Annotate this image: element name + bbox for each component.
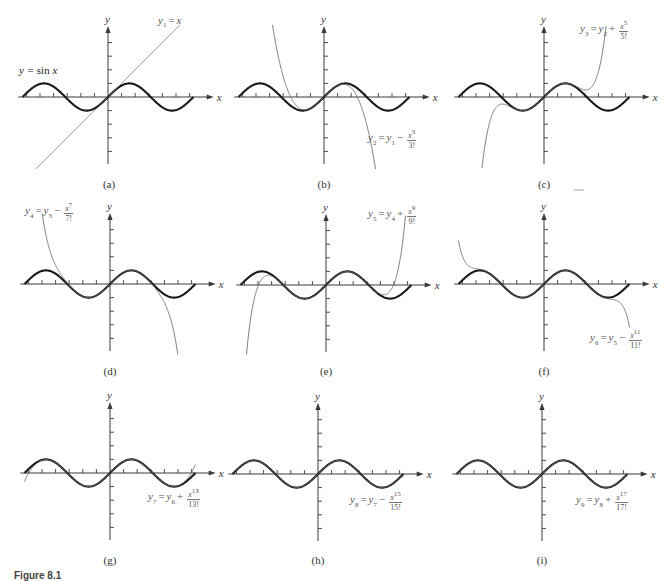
eq-fraction: x99! <box>407 204 416 226</box>
eq-den: 11! <box>629 341 641 350</box>
eq-rhs-sub: 6 <box>172 498 176 506</box>
eq-rhs-sub: 4 <box>392 215 396 223</box>
eq-num-sup: 9 <box>412 204 416 212</box>
equation-f: y6=y5−x1111! <box>590 328 642 350</box>
equation-e: y5=y4+x99! <box>368 204 416 226</box>
eq-op: + <box>609 22 615 34</box>
equation-i: y9=y8+x1717! <box>576 490 628 512</box>
plot-svg: xy <box>0 0 220 190</box>
y-axis-label: y <box>540 200 546 212</box>
eq-fraction: x55! <box>619 19 628 41</box>
panel-h: xy <box>210 377 430 567</box>
plot-svg: xy <box>2 376 222 566</box>
sin-label-arg: x <box>50 64 58 76</box>
eq-lhs-sub: 8 <box>355 501 359 509</box>
eq-lhs-sub: 6 <box>595 339 599 347</box>
panel-label-i: (i) <box>522 554 562 566</box>
y-axis-label: y <box>314 390 320 402</box>
eq-op: + <box>397 207 403 219</box>
y-axis-arrow-icon <box>105 26 110 33</box>
eq-den: 13! <box>187 500 200 509</box>
eq-fraction: x33! <box>407 128 416 150</box>
panel-g: xy <box>2 376 222 566</box>
y-axis-label: y <box>104 13 110 25</box>
eq-num-sup: 11 <box>634 328 641 336</box>
x-axis-arrow-icon <box>417 471 424 476</box>
equation-c: y3=y2+x55! <box>580 19 628 41</box>
panel-label-h: (h) <box>298 554 338 566</box>
panel-label-e: (e) <box>306 365 346 377</box>
x-axis-label: x <box>426 468 432 480</box>
eq-rhs: x <box>177 14 182 26</box>
eq-op: − <box>54 204 60 216</box>
y-axis-arrow-icon <box>323 214 328 221</box>
y-axis-label: y <box>106 200 112 212</box>
eq-den: 3! <box>407 141 416 150</box>
eq-den: 5! <box>619 32 628 41</box>
equation-g: y7=y6+x1313! <box>148 487 200 509</box>
eq-lhs-sub: 5 <box>373 215 377 223</box>
y-axis-label: y <box>106 389 112 401</box>
panel-label-a: (a) <box>89 178 129 190</box>
eq-lhs-sub: 4 <box>30 212 34 220</box>
panel-a: xy <box>0 0 220 190</box>
y-axis-arrow-icon <box>541 26 546 33</box>
eq-fraction: x77! <box>64 201 73 223</box>
eq-num-sup: 15 <box>394 490 401 498</box>
eq-den: 15! <box>389 503 402 512</box>
eq-op: − <box>397 131 403 143</box>
panel-label-b: (b) <box>304 178 344 190</box>
x-axis-arrow-icon <box>423 94 430 99</box>
y-axis-arrow-icon <box>107 402 112 409</box>
eq-fraction: x1111! <box>629 328 641 350</box>
panel-i: xy <box>434 377 654 567</box>
x-axis-label: x <box>652 278 658 290</box>
equation-a: y1=x <box>158 14 182 29</box>
x-axis-arrow-icon <box>643 94 650 99</box>
eq-fraction: x1515! <box>389 490 402 512</box>
eq-fraction: x1717! <box>615 490 628 512</box>
eq-rhs-sub: 7 <box>374 501 378 509</box>
y-axis-arrow-icon <box>107 213 112 220</box>
eq-lhs-sub: 2 <box>373 139 377 147</box>
eq-den: 7! <box>64 214 73 223</box>
x-axis-arrow-icon <box>643 281 650 286</box>
plot-svg: xy <box>210 377 430 567</box>
sin-label: y = sin x <box>19 64 57 76</box>
eq-rhs-sub: 5 <box>614 339 618 347</box>
eq-rhs-sub: 8 <box>600 501 604 509</box>
y-axis-arrow-icon <box>541 213 546 220</box>
eq-fraction: x1313! <box>187 487 200 509</box>
x-axis-arrow-icon <box>209 281 216 286</box>
eq-num-sup: 5 <box>624 19 628 27</box>
eq-num-sup: 17 <box>620 490 627 498</box>
plot-svg: xy <box>434 377 654 567</box>
y-axis-label: y <box>538 390 544 402</box>
y-axis-label: y <box>540 13 546 25</box>
eq-den: 17! <box>615 503 628 512</box>
eq-lhs-sub: 1 <box>163 21 167 29</box>
x-axis-arrow-icon <box>425 282 432 287</box>
y-axis-label: y <box>322 201 328 213</box>
equation-b: y2=y1−x33! <box>368 128 416 150</box>
sin-label-equals: = <box>24 64 37 76</box>
eq-op: + <box>177 490 183 502</box>
y-axis-arrow-icon <box>315 403 320 410</box>
eq-lhs-sub: 3 <box>585 30 589 38</box>
eq-lhs-sub: 9 <box>581 501 585 509</box>
panel-label-d: (d) <box>90 365 130 377</box>
y-axis-label: y <box>320 13 326 25</box>
eq-rhs-sub: 3 <box>49 212 53 220</box>
x-axis-arrow-icon <box>207 94 214 99</box>
panel-b: xy <box>216 0 436 190</box>
eq-num-sup: 7 <box>69 201 73 209</box>
eq-rhs-sub: 2 <box>604 30 608 38</box>
eq-op: − <box>619 331 625 343</box>
equation-d: y4=y3−x77! <box>25 201 73 223</box>
plot-svg: xy <box>216 0 436 190</box>
y-axis-arrow-icon <box>539 403 544 410</box>
eq-num-sup: 3 <box>412 128 416 136</box>
scan-artifact <box>574 189 584 191</box>
eq-num-sup: 13 <box>192 487 199 495</box>
y-axis-arrow-icon <box>321 26 326 33</box>
